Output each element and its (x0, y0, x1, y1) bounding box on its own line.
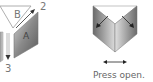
face-b-label: B (14, 10, 21, 20)
double-arrow-right-head (123, 60, 127, 64)
press-open-caption: Press open. (93, 71, 145, 80)
left-edge-panel (0, 32, 3, 62)
fold-step-right: Press open. (76, 0, 153, 82)
face-a-label: A (23, 32, 29, 41)
arrow-3-label: 3 (5, 64, 11, 74)
arrow-2-label: 2 (40, 2, 46, 12)
arrow-3-head (6, 55, 11, 60)
double-arrow-left-head (103, 60, 107, 64)
fold-step-left: B A 2 3 (0, 0, 60, 82)
